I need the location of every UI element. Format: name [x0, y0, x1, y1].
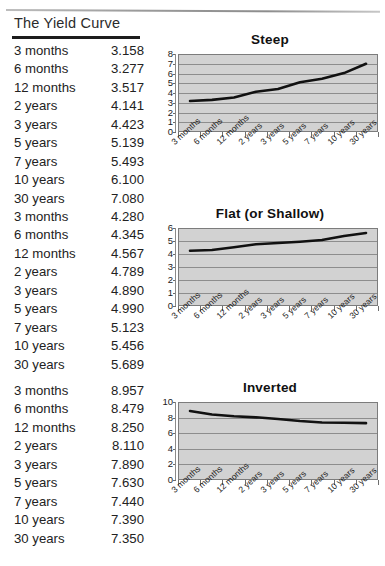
table-row: 10 years5.456	[14, 338, 144, 356]
table-row: 3 years4.890	[14, 283, 144, 301]
x-axis-labels: 3 months6 months12 months2 years3 years5…	[158, 308, 382, 362]
maturity-label: 7 years	[14, 494, 57, 509]
maturity-label: 10 years	[14, 338, 65, 353]
page-title: The Yield Curve	[14, 15, 120, 31]
table-row: 6 months3.277	[14, 61, 144, 79]
yield-value: 3.277	[111, 61, 144, 76]
table-row: 7 years7.440	[14, 494, 144, 512]
chart-steep: Steep0123456783 months6 months12 months2…	[158, 32, 382, 190]
yield-value: 7.890	[111, 457, 144, 472]
yield-value: 4.789	[111, 264, 144, 279]
table-row: 3 years4.423	[14, 117, 144, 135]
yield-table-flat: 3 months4.2806 months4.34512 months4.567…	[14, 209, 144, 375]
maturity-label: 3 months	[14, 383, 68, 398]
y-axis-tick-label: 10	[162, 397, 173, 407]
table-row: 3 months3.158	[14, 43, 144, 61]
maturity-label: 7 years	[14, 154, 57, 169]
yield-value: 4.990	[111, 301, 144, 316]
maturity-label: 30 years	[14, 531, 65, 546]
y-axis-line	[175, 402, 176, 480]
table-row: 5 years7.630	[14, 475, 144, 493]
maturity-label: 3 years	[14, 283, 57, 298]
maturity-label: 2 years	[14, 98, 57, 113]
maturity-label: 3 years	[14, 457, 57, 472]
y-axis: 0123456	[158, 228, 176, 306]
table-row: 30 years7.080	[14, 191, 144, 209]
table-row: 10 years7.390	[14, 512, 144, 530]
table-row: 12 months3.517	[14, 80, 144, 98]
maturity-label: 2 years	[14, 264, 57, 279]
y-axis: 0246810	[158, 402, 176, 480]
yield-curve-line	[190, 411, 366, 423]
yield-table-steep: 3 months3.1586 months3.27712 months3.517…	[14, 43, 144, 209]
yield-value: 5.456	[111, 338, 144, 353]
maturity-label: 3 months	[14, 43, 68, 58]
table-row: 3 years7.890	[14, 457, 144, 475]
yield-table-inverted: 3 months8.9576 months8.47912 months8.250…	[14, 383, 144, 549]
maturity-label: 30 years	[14, 357, 65, 372]
yield-curve-line	[190, 64, 366, 101]
yield-value: 7.630	[111, 475, 144, 490]
table-row: 12 months4.567	[14, 246, 144, 264]
yield-value: 8.250	[111, 420, 144, 435]
y-axis-line	[175, 228, 176, 306]
table-row: 6 months8.479	[14, 401, 144, 419]
yield-value: 5.493	[111, 154, 144, 169]
table-row: 12 months8.250	[14, 420, 144, 438]
table-row: 30 years5.689	[14, 357, 144, 375]
table-row: 30 years7.350	[14, 531, 144, 549]
table-row: 5 years5.139	[14, 135, 144, 153]
maturity-label: 10 years	[14, 172, 65, 187]
table-row: 2 years8.110	[14, 438, 144, 456]
maturity-label: 5 years	[14, 301, 57, 316]
yield-value: 8.479	[111, 401, 144, 416]
table-row: 2 years4.141	[14, 98, 144, 116]
maturity-label: 12 months	[14, 420, 76, 435]
table-row: 6 months4.345	[14, 227, 144, 245]
yield-value: 4.423	[111, 117, 144, 132]
table-row: 3 months8.957	[14, 383, 144, 401]
y-axis-line	[175, 54, 176, 132]
yield-value: 3.158	[111, 43, 144, 58]
maturity-label: 6 months	[14, 227, 68, 242]
table-row: 7 years5.123	[14, 320, 144, 338]
yield-value: 5.139	[111, 135, 144, 150]
maturity-label: 5 years	[14, 475, 57, 490]
yield-value: 8.110	[112, 438, 144, 453]
page-title-underline	[12, 36, 140, 39]
yield-value: 4.141	[111, 98, 144, 113]
maturity-label: 12 months	[14, 80, 76, 95]
yield-value: 7.390	[111, 512, 144, 527]
table-row: 7 years5.493	[14, 154, 144, 172]
table-row: 2 years4.789	[14, 264, 144, 282]
yield-value: 7.440	[111, 494, 144, 509]
table-row: 3 months4.280	[14, 209, 144, 227]
y-axis: 012345678	[158, 54, 176, 132]
yield-curve-line	[190, 233, 366, 251]
yield-value: 7.080	[111, 191, 144, 206]
chart-title: Inverted	[158, 380, 382, 395]
yield-value: 4.280	[111, 209, 144, 224]
yield-value: 4.890	[111, 283, 144, 298]
yield-value: 4.345	[111, 227, 144, 242]
x-axis-labels: 3 months6 months12 months2 years3 years5…	[158, 482, 382, 536]
x-axis-labels: 3 months6 months12 months2 years3 years5…	[158, 134, 382, 188]
page-top-rule	[6, 9, 380, 13]
maturity-label: 7 years	[14, 320, 57, 335]
chart-title: Steep	[158, 32, 382, 47]
yield-value: 7.350	[111, 531, 144, 546]
maturity-label: 10 years	[14, 512, 65, 527]
maturity-label: 30 years	[14, 191, 65, 206]
maturity-label: 6 months	[14, 61, 68, 76]
maturity-label: 2 years	[14, 438, 57, 453]
yield-value: 5.689	[111, 357, 144, 372]
table-row: 5 years4.990	[14, 301, 144, 319]
maturity-label: 5 years	[14, 135, 57, 150]
maturity-label: 6 months	[14, 401, 68, 416]
maturity-label: 12 months	[14, 246, 76, 261]
chart-title: Flat (or Shallow)	[158, 206, 382, 221]
yield-value: 3.517	[111, 80, 144, 95]
yield-curve-page: The Yield Curve 3 months3.1586 months3.2…	[0, 0, 385, 566]
yield-value: 6.100	[111, 172, 144, 187]
chart-flat: Flat (or Shallow)01234563 months6 months…	[158, 206, 382, 364]
